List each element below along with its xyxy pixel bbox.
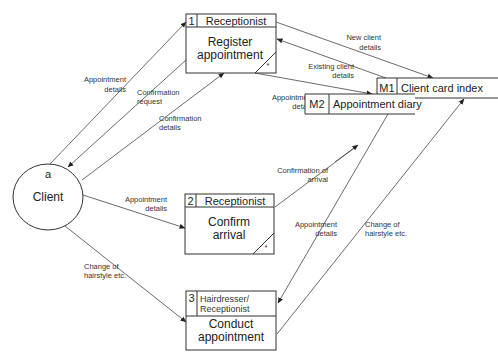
svg-text:arrival: arrival <box>213 228 246 242</box>
process-number: 2 <box>187 195 193 207</box>
process-name: Conduct <box>209 317 254 331</box>
flow-label: New client <box>346 33 382 42</box>
flow-register-to-m1-new-client <box>276 22 433 78</box>
process-actor: Receptionist <box>205 195 266 207</box>
svg-text:request: request <box>137 97 163 106</box>
entity-label: Client <box>33 190 64 204</box>
process-confirm-arrival: 2 Receptionist Confirm arrival * <box>185 194 274 254</box>
store-label: Appointment diary <box>333 98 422 110</box>
process-actor: Receptionist <box>206 15 267 27</box>
store-id: M1 <box>379 82 394 94</box>
flow-label: Appointment <box>295 220 338 229</box>
flow-confirm-arrival-to-m2 <box>335 145 358 162</box>
svg-text:hairstyle etc.: hairstyle etc. <box>84 271 126 280</box>
process-number: 3 <box>188 292 194 304</box>
flow-label: Confirmation of <box>277 166 329 175</box>
flow-label: Change of <box>365 220 401 229</box>
store-label: Client card index <box>401 82 483 94</box>
flow-label: Change of <box>84 262 120 271</box>
flow-register-to-m2-appointment <box>255 73 372 94</box>
store-id: M2 <box>309 98 324 110</box>
svg-text:details: details <box>145 204 167 213</box>
process-register-appointment: 1 Receptionist Register appointment * <box>186 14 276 73</box>
svg-text:details: details <box>159 123 181 132</box>
process-name: Register <box>208 35 253 49</box>
process-number: 1 <box>188 15 194 27</box>
flow-conduct-to-m1-hairstyle <box>277 99 464 334</box>
flow-m2-to-conduct-appointment <box>278 114 388 303</box>
svg-text:appointment: appointment <box>197 48 264 62</box>
process-conduct-appointment: 3 Hairdresser/ Receptionist Conduct appo… <box>186 291 276 350</box>
flow-label: Appointment <box>125 195 168 204</box>
data-flow-diagram: Appointment details Confirmation request… <box>0 0 498 361</box>
entity-id: a <box>45 168 52 180</box>
svg-text:hairstyle etc.: hairstyle etc. <box>365 229 407 238</box>
process-actor: Hairdresser/ <box>200 294 250 304</box>
svg-text:details: details <box>104 85 126 94</box>
svg-text:Receptionist: Receptionist <box>200 304 250 314</box>
svg-text:arrival: arrival <box>308 175 329 184</box>
svg-text:appointment: appointment <box>198 330 265 344</box>
svg-text:details: details <box>332 71 354 80</box>
flow-label: Confirmation <box>137 88 180 97</box>
external-entity-client: a Client <box>13 164 83 230</box>
flow-label: Appointment <box>84 75 127 84</box>
svg-text:details: details <box>315 229 337 238</box>
process-name: Confirm <box>208 215 250 229</box>
duplicate-marker: * <box>267 61 270 70</box>
svg-text:details: details <box>359 43 381 52</box>
data-store-appointment-diary: M2 Appointment diary <box>305 94 422 114</box>
duplicate-marker: * <box>265 243 268 252</box>
flow-label: Existing client <box>308 62 355 71</box>
flow-label: Confirmation <box>159 114 202 123</box>
